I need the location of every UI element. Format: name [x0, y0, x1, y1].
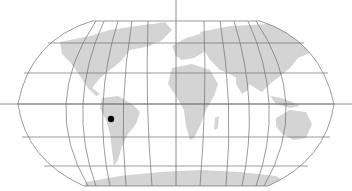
south-america [100, 96, 140, 166]
madagascar [214, 116, 219, 130]
australia [276, 110, 312, 140]
map-canvas[interactable] [0, 0, 352, 191]
location-marker-icon[interactable] [108, 116, 114, 122]
world-map[interactable]: World map [0, 0, 352, 191]
southeast-asia [270, 96, 300, 108]
crosshair [0, 0, 352, 186]
asia [200, 24, 318, 92]
antarctica [84, 170, 286, 186]
africa [168, 64, 218, 140]
